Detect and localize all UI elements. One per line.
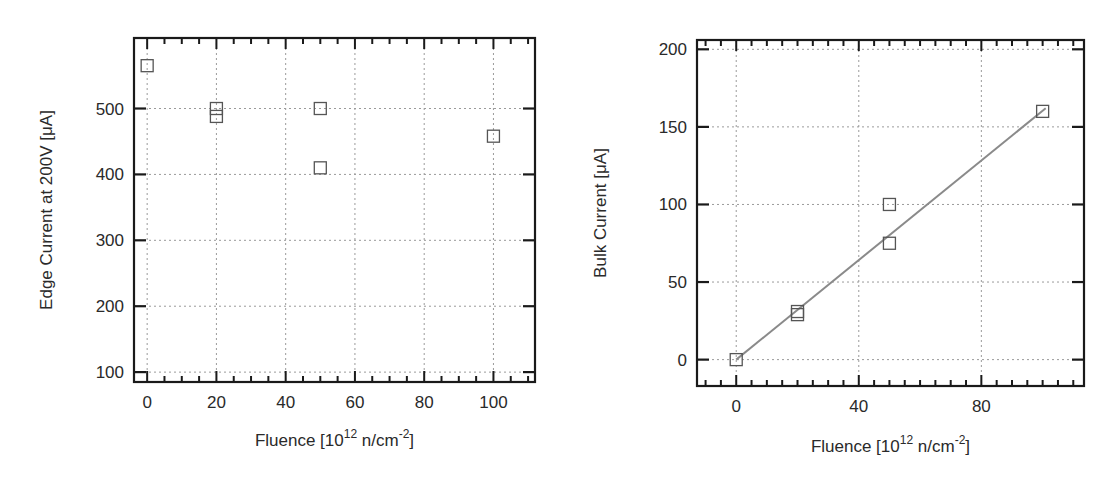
data-series	[141, 60, 499, 174]
y-tick-label: 200	[659, 40, 687, 59]
x-tick-label: 0	[731, 397, 740, 416]
y-tick-label: 0	[678, 351, 687, 370]
x-tick-label: 0	[142, 393, 151, 412]
y-tick-label: 100	[659, 195, 687, 214]
data-point-square-marker	[210, 110, 222, 122]
figure-canvas: 020406080100100200300400500Fluence [1012…	[0, 0, 1115, 487]
y-tick-label: 50	[668, 273, 687, 292]
x-tick-label: 80	[972, 397, 991, 416]
y-tick-label: 200	[96, 297, 124, 316]
plot-frame	[134, 38, 535, 382]
y-tick-label: 100	[96, 363, 124, 382]
x-tick-label: 80	[415, 393, 434, 412]
axis-ticks	[134, 38, 535, 382]
x-tick-label: 20	[207, 393, 226, 412]
axis-ticks	[697, 40, 1084, 386]
fit-line	[736, 108, 1045, 359]
bulk-current-plot: 04080050100150200Fluence [1012 n/cm-2]Bu…	[591, 40, 1084, 456]
y-axis-label: Bulk Current [μA]	[591, 148, 610, 278]
y-tick-label: 300	[96, 231, 124, 250]
x-axis-label: Fluence [1012 n/cm-2]	[255, 427, 414, 450]
grid-lines	[134, 38, 535, 382]
x-tick-label: 60	[345, 393, 364, 412]
y-tick-label: 150	[659, 118, 687, 137]
y-axis-label: Edge Current at 200V [μA]	[37, 110, 56, 310]
data-point-square-marker	[314, 162, 326, 174]
x-tick-label: 40	[849, 397, 868, 416]
plot-frame	[697, 40, 1084, 386]
x-axis-label: Fluence [1012 n/cm-2]	[811, 433, 970, 456]
y-tick-label: 400	[96, 165, 124, 184]
y-tick-label: 500	[96, 100, 124, 119]
x-tick-label: 100	[479, 393, 507, 412]
grid-lines	[697, 40, 1084, 386]
edge-current-plot: 020406080100100200300400500Fluence [1012…	[37, 38, 535, 450]
data-point-square-marker	[487, 130, 499, 142]
x-tick-label: 40	[276, 393, 295, 412]
